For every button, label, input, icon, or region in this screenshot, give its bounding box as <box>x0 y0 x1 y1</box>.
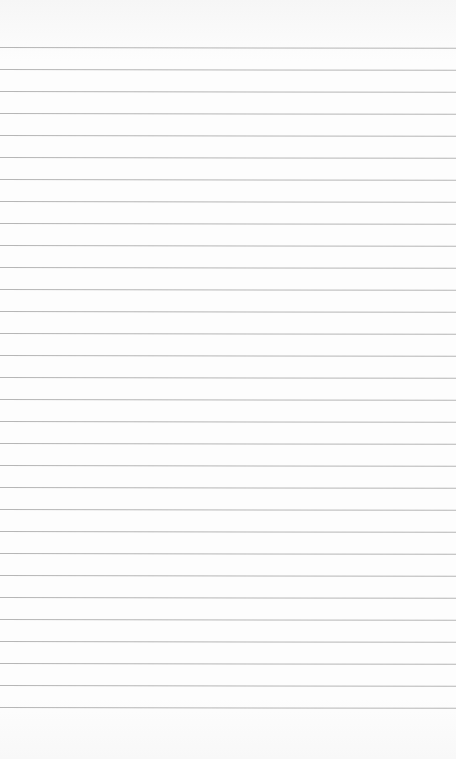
ruled-line <box>0 487 456 489</box>
ruled-line <box>0 69 456 71</box>
ruled-line <box>0 641 456 643</box>
ruled-line <box>0 47 456 49</box>
ruled-line <box>0 311 456 313</box>
ruled-line <box>0 443 456 445</box>
ruled-line <box>0 465 456 467</box>
lined-paper-sheet <box>0 0 456 759</box>
ruled-line <box>0 201 456 203</box>
ruled-line <box>0 597 456 599</box>
ruled-line <box>0 575 456 577</box>
ruled-line <box>0 267 456 269</box>
ruled-line <box>0 509 456 511</box>
ruled-line <box>0 377 456 379</box>
ruled-line <box>0 135 456 137</box>
ruled-line <box>0 91 456 93</box>
ruled-line <box>0 113 456 115</box>
ruled-line <box>0 333 456 335</box>
ruled-line <box>0 245 456 247</box>
ruled-line <box>0 179 456 181</box>
ruled-line <box>0 399 456 401</box>
ruled-line <box>0 663 456 665</box>
ruled-line <box>0 707 456 709</box>
ruled-line <box>0 421 456 423</box>
ruled-line <box>0 619 456 621</box>
ruled-line <box>0 157 456 159</box>
ruled-line <box>0 289 456 291</box>
ruled-line <box>0 685 456 687</box>
ruled-line <box>0 531 456 533</box>
ruled-line <box>0 355 456 357</box>
ruled-line <box>0 553 456 555</box>
ruled-line <box>0 223 456 225</box>
